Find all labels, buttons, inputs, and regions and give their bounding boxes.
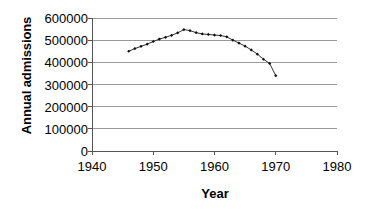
axis-ticks xyxy=(88,18,337,155)
series-line xyxy=(129,30,276,76)
plot-area xyxy=(0,0,368,209)
chart-figure: Annual admissions 0100000200000300000400… xyxy=(0,0,368,209)
x-axis-title: Year xyxy=(92,186,338,201)
